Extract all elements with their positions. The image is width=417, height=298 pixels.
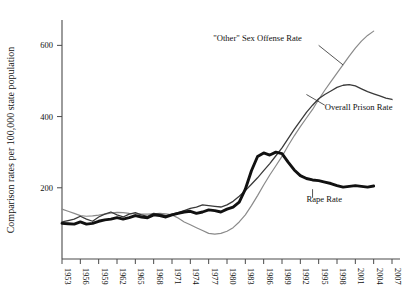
- chart-container: Comparison rates per 100,000 state popul…: [0, 0, 417, 298]
- y-axis-ticks: 200400600: [40, 40, 62, 192]
- x-tick-label: 1986: [265, 268, 274, 285]
- x-tick-label: 1953: [63, 268, 72, 285]
- x-tick-label: 1971: [173, 268, 182, 285]
- rape-rate-label: Rape Rate: [306, 194, 342, 204]
- x-tick-label: 1962: [118, 268, 127, 285]
- x-tick-label: 1965: [136, 268, 145, 285]
- other-sex-offense-label: "Other" Sex Offense Rate: [213, 33, 302, 43]
- line-chart: Comparison rates per 100,000 state popul…: [0, 0, 417, 298]
- y-tick-label: 200: [40, 183, 53, 193]
- x-tick-label: 1956: [81, 268, 90, 285]
- x-tick-label: 2001: [356, 268, 365, 285]
- x-tick-label: 1989: [283, 268, 292, 285]
- other-sex-offense-leader: [319, 45, 343, 65]
- y-tick-label: 400: [40, 112, 53, 122]
- x-axis-ticks: 1953195619591962196519681971197419771980…: [62, 259, 402, 285]
- x-tick-label: 2004: [375, 268, 384, 285]
- x-tick-label: 1995: [320, 268, 329, 285]
- x-tick-label: 1980: [228, 268, 237, 285]
- overall-prison-label: Overall Prison Rate: [325, 102, 393, 112]
- x-tick-label: 1974: [191, 268, 200, 285]
- series-group: [62, 31, 392, 234]
- x-tick-label: 1983: [246, 268, 255, 285]
- x-tick-label: 1959: [100, 268, 109, 285]
- x-tick-label: 2007: [393, 268, 402, 285]
- x-tick-label: 1968: [155, 268, 164, 285]
- y-tick-label: 600: [40, 40, 53, 50]
- x-tick-label: 1998: [338, 268, 347, 285]
- x-tick-label: 1992: [301, 268, 310, 285]
- x-tick-label: 1977: [210, 268, 219, 285]
- y-axis-title: Comparison rates per 100,000 state popul…: [5, 47, 16, 234]
